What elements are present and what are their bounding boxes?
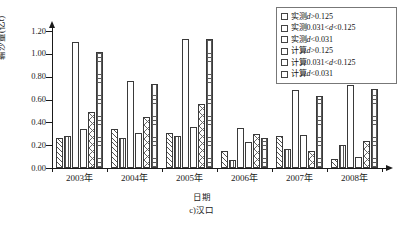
legend-label: 实测0.031<d<0.125 xyxy=(291,24,356,32)
y-tick-label: 0.20 xyxy=(0,141,54,150)
bar xyxy=(347,85,354,168)
x-axis-arrow-icon xyxy=(386,165,393,171)
bar xyxy=(206,39,213,168)
bar xyxy=(316,96,323,168)
legend-item: 计算d<0.031 xyxy=(281,69,392,81)
x-axis-label: 2007年 xyxy=(272,174,327,183)
legend-label: 计算d<0.031 xyxy=(291,70,334,78)
bar xyxy=(221,151,228,168)
legend-label: 实测d<0.031 xyxy=(291,36,334,44)
x-tick xyxy=(107,168,108,172)
legend-item: 计算d>0.125 xyxy=(281,46,392,58)
x-axis-label: 2008年 xyxy=(327,174,382,183)
x-tick xyxy=(382,168,383,172)
bar xyxy=(371,89,378,168)
bar xyxy=(96,52,103,168)
legend-label: 计算0.031<d<0.125 xyxy=(291,59,356,67)
y-tick-label: 0.40 xyxy=(0,118,54,127)
bar xyxy=(331,159,338,168)
x-axis-title: 日期 xyxy=(0,190,403,202)
bar xyxy=(308,151,315,168)
bar xyxy=(88,112,95,168)
bar xyxy=(166,133,173,168)
x-axis-label: 2003年 xyxy=(52,174,107,183)
bar xyxy=(143,117,150,168)
figure-caption: c)汉口 xyxy=(0,203,403,215)
legend-item: 计算0.031<d<0.125 xyxy=(281,57,392,69)
bar xyxy=(182,39,189,168)
legend-item: 实测d<0.031 xyxy=(281,34,392,46)
legend-label: 计算d>0.125 xyxy=(291,47,334,55)
bar xyxy=(300,135,307,168)
bar xyxy=(198,104,205,168)
bar xyxy=(339,145,346,168)
x-axis-label: 2006年 xyxy=(217,174,272,183)
legend-item: 实测d>0.125 xyxy=(281,11,392,23)
legend: 实测d>0.125实测0.031<d<0.125实测d<0.031计算d>0.1… xyxy=(276,7,397,84)
y-tick-label: 1.00 xyxy=(0,49,54,58)
legend-item: 实测0.031<d<0.125 xyxy=(281,23,392,35)
bar xyxy=(245,142,252,168)
bar xyxy=(363,141,370,168)
legend-swatch xyxy=(281,48,288,55)
legend-label: 实测d>0.125 xyxy=(291,13,334,21)
x-tick xyxy=(52,168,53,172)
bar xyxy=(72,42,79,168)
x-tick xyxy=(217,168,218,172)
bar xyxy=(64,136,71,168)
bar xyxy=(292,90,299,168)
bar xyxy=(111,129,118,168)
bar xyxy=(284,149,291,168)
legend-swatch xyxy=(281,13,288,20)
legend-swatch xyxy=(281,71,288,78)
y-tick-label: 0.60 xyxy=(0,95,54,104)
y-tick-label: 0.00 xyxy=(0,164,54,173)
bar xyxy=(229,160,236,168)
bar xyxy=(237,128,244,168)
bar xyxy=(119,138,126,168)
bar xyxy=(127,81,134,168)
x-axis-label: 2005年 xyxy=(162,174,217,183)
legend-swatch xyxy=(281,25,288,32)
x-axis-label: 2004年 xyxy=(107,174,162,183)
x-tick xyxy=(162,168,163,172)
bar xyxy=(174,136,181,168)
x-tick xyxy=(272,168,273,172)
bar xyxy=(190,127,197,168)
x-axis-line xyxy=(52,168,388,169)
x-tick xyxy=(327,168,328,172)
bar xyxy=(151,84,158,168)
bar xyxy=(261,138,268,168)
y-tick-label: 0.80 xyxy=(0,72,54,81)
bar xyxy=(135,133,142,168)
y-tick-label: 1.20 xyxy=(0,27,54,36)
chart-figure: 输沙量(亿t) 0.000.200.400.600.801.001.20 200… xyxy=(0,0,403,230)
bar xyxy=(355,157,362,168)
legend-swatch xyxy=(281,36,288,43)
bar xyxy=(56,138,63,168)
bar xyxy=(253,134,260,168)
legend-swatch xyxy=(281,59,288,66)
bar xyxy=(80,129,87,168)
bar xyxy=(276,136,283,168)
